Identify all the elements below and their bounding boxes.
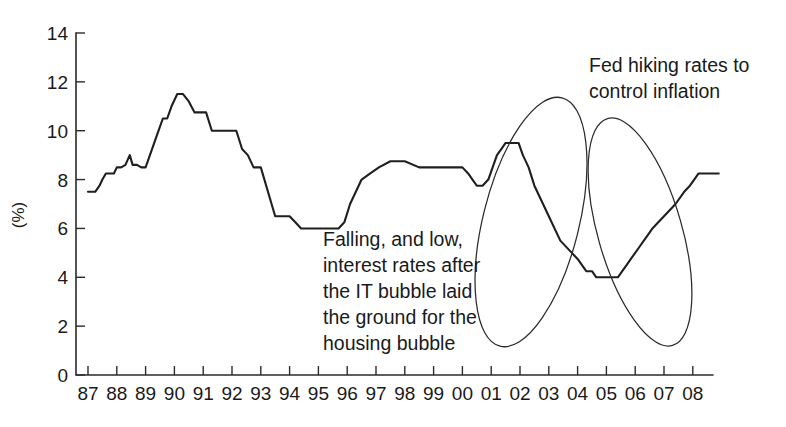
- y-tick-label: 12: [47, 72, 68, 93]
- x-tick-marks: [88, 366, 693, 375]
- x-tick-label: 06: [625, 383, 646, 404]
- x-tick-label: 92: [221, 383, 242, 404]
- y-axis-tick-labels: 02468101214: [47, 23, 69, 386]
- annotation-line: control inflation: [589, 80, 720, 102]
- x-tick-label: 87: [77, 383, 98, 404]
- x-tick-label: 01: [481, 383, 502, 404]
- y-axis-title: (%): [9, 202, 28, 228]
- x-tick-label: 05: [596, 383, 617, 404]
- x-tick-label: 98: [394, 383, 415, 404]
- annotations: Falling, and low,interest rates afterthe…: [323, 54, 750, 354]
- highlight-ellipse: [567, 107, 713, 357]
- highlight-ellipses: [453, 86, 712, 358]
- x-tick-label: 90: [164, 383, 185, 404]
- x-tick-label: 08: [682, 383, 703, 404]
- x-tick-label: 96: [337, 383, 358, 404]
- chart-canvas: 02468101214 8788899091929394959697989900…: [0, 0, 786, 427]
- y-tick-label: 8: [57, 170, 68, 191]
- annotation-line: housing bubble: [323, 332, 455, 354]
- annotation-fed-hiking: Fed hiking rates tocontrol inflation: [589, 54, 750, 102]
- x-tick-label: 95: [308, 383, 329, 404]
- annotation-line: the ground for the: [323, 306, 477, 328]
- x-tick-label: 89: [135, 383, 156, 404]
- annotation-line: Fed hiking rates to: [589, 54, 750, 76]
- x-tick-label: 97: [365, 383, 386, 404]
- y-tick-label: 14: [47, 23, 69, 44]
- x-tick-label: 04: [567, 383, 589, 404]
- x-tick-label: 07: [653, 383, 674, 404]
- x-tick-label: 88: [106, 383, 127, 404]
- annotation-line: the IT bubble laid: [323, 280, 472, 302]
- x-tick-label: 00: [452, 383, 473, 404]
- x-tick-label: 99: [423, 383, 444, 404]
- annotation-it-bubble: Falling, and low,interest rates afterthe…: [323, 228, 481, 354]
- x-tick-label: 03: [538, 383, 559, 404]
- y-tick-label: 0: [57, 365, 68, 386]
- x-tick-label: 93: [250, 383, 271, 404]
- x-tick-label: 02: [509, 383, 530, 404]
- x-axis-tick-labels: 8788899091929394959697989900010203040506…: [77, 383, 703, 404]
- x-tick-label: 94: [279, 383, 301, 404]
- y-tick-label: 2: [57, 316, 68, 337]
- y-tick-label: 6: [57, 218, 68, 239]
- y-tick-label: 4: [57, 267, 68, 288]
- y-tick-marks: [76, 33, 85, 375]
- annotation-line: interest rates after: [323, 254, 481, 276]
- interest-rate-chart: 02468101214 8788899091929394959697989900…: [0, 0, 786, 427]
- y-tick-label: 10: [47, 121, 68, 142]
- x-tick-label: 91: [193, 383, 214, 404]
- annotation-line: Falling, and low,: [323, 228, 463, 250]
